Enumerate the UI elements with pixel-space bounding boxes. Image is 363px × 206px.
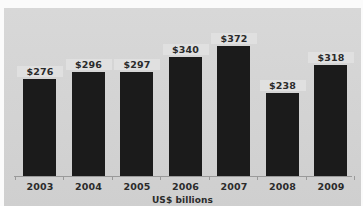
bar-group: $318	[308, 14, 354, 176]
bar-value-label: $238	[260, 80, 306, 91]
bar-value-label: $318	[308, 52, 354, 63]
x-axis-tick	[63, 176, 64, 180]
bar-value-label: $276	[17, 66, 63, 77]
bar-value-label: $372	[211, 33, 257, 44]
x-axis-tick-label: 2008	[260, 180, 306, 193]
bar	[72, 72, 105, 176]
x-axis-line	[14, 176, 352, 177]
x-axis-tick	[209, 176, 210, 180]
bar	[23, 79, 56, 176]
bar	[314, 65, 347, 176]
bar	[217, 46, 250, 176]
bar-group: $297	[114, 14, 160, 176]
bar-group: $340	[163, 14, 209, 176]
bar-group: $296	[66, 14, 112, 176]
bars-container: $276$296$297$340$372$238$318	[17, 14, 357, 176]
x-axis-tick-label: 2005	[114, 180, 160, 193]
x-axis-tick-label: 2004	[66, 180, 112, 193]
bar	[169, 57, 202, 176]
x-axis-tick	[112, 176, 113, 180]
x-axis-category-labels: 2003200420052006200720082009	[17, 180, 357, 194]
x-axis-tick	[15, 176, 16, 180]
bar-group: $276	[17, 14, 63, 176]
x-axis-tick	[257, 176, 258, 180]
bar	[120, 72, 153, 176]
x-axis-tick-label: 2006	[163, 180, 209, 193]
x-axis-tick	[160, 176, 161, 180]
plot-area: $276$296$297$340$372$238$318 20032004200…	[4, 8, 361, 206]
x-axis-tick	[354, 176, 355, 180]
bar	[266, 93, 299, 176]
bar-chart: $276$296$297$340$372$238$318 20032004200…	[0, 0, 363, 206]
bar-value-label: $296	[66, 59, 112, 70]
bar-value-label: $340	[163, 44, 209, 55]
bar-group: $372	[211, 14, 257, 176]
x-axis-tick	[306, 176, 307, 180]
bar-value-label: $297	[114, 59, 160, 70]
x-axis-tick-label: 2009	[308, 180, 354, 193]
x-axis-title: US$ billions	[4, 195, 361, 206]
x-axis-tick-label: 2003	[17, 180, 63, 193]
x-axis-tick-label: 2007	[211, 180, 257, 193]
bar-group: $238	[260, 14, 306, 176]
